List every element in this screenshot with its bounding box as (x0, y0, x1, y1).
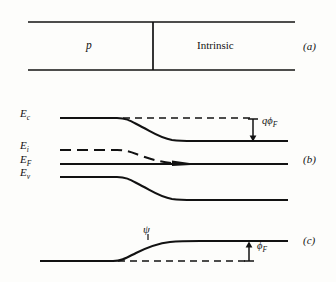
phi-f-label: ϕF (257, 241, 267, 254)
semiconductor-band-diagram-figure: p Intrinsic (a) Ec Ei EF Ev qϕF (b) ψ ϕF… (0, 0, 336, 282)
q-phi-f-subscript: F (273, 120, 278, 129)
intrinsic-level-label: Ei (20, 140, 29, 154)
panel-b-bands (60, 118, 288, 200)
valence-band-label: Ev (20, 167, 30, 181)
intrinsic-level-curve (60, 150, 176, 164)
panel-c-potential (40, 234, 288, 261)
valence-band-subscript: v (27, 172, 30, 181)
q-phi-f-symbol: qϕ (262, 115, 273, 126)
panel-tag-c: (c) (303, 235, 315, 246)
p-region-label: p (86, 40, 92, 52)
conduction-band-subscript: c (27, 113, 30, 122)
conduction-band-label: Ec (20, 108, 30, 122)
figure-vector-layer (0, 0, 336, 282)
intrinsic-region-label: Intrinsic (197, 40, 234, 51)
phi-f-subscript: F (262, 245, 267, 254)
panel-tag-b: (b) (303, 154, 316, 165)
panel-tag-a: (a) (303, 41, 316, 52)
q-phi-f-measure-arrow (248, 119, 258, 142)
phi-f-measure-arrow (244, 242, 254, 262)
panel-a-schematic (28, 22, 295, 70)
valence-band-curve (60, 177, 288, 200)
potential-curve (40, 241, 288, 261)
intrinsic-level-subscript: i (27, 145, 29, 154)
potential-symbol-label: ψ (143, 224, 150, 235)
q-phi-f-label: qϕF (262, 116, 277, 129)
